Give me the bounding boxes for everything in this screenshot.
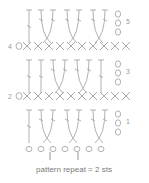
crossed-dc-pair-row3 bbox=[50, 60, 68, 93]
crochet-chart: 5 4 3 2 1 pattern repeat = 2 sts bbox=[0, 0, 149, 183]
row-label-3: 3 bbox=[126, 68, 130, 75]
sc-stitch-row4 bbox=[122, 42, 130, 50]
sc-stitch-row2 bbox=[34, 92, 42, 100]
row-label-5: 5 bbox=[126, 18, 130, 25]
sc-stitch-row2 bbox=[45, 92, 53, 100]
foundation-chain bbox=[86, 146, 92, 151]
sc-stitch-row4 bbox=[67, 42, 75, 50]
crossed-dc-pair-row1 bbox=[90, 110, 108, 143]
row-label-4: 4 bbox=[8, 43, 12, 50]
crossed-dc-pair-row3 bbox=[74, 60, 92, 93]
sc-stitch-row2 bbox=[67, 92, 75, 100]
chart-rows bbox=[16, 10, 130, 152]
sc-stitch-row2 bbox=[89, 92, 97, 100]
turning-chain-row3 bbox=[115, 70, 120, 76]
foundation-chain bbox=[98, 146, 104, 151]
sc-stitch-row2 bbox=[111, 92, 119, 100]
sc-stitch-row4 bbox=[34, 42, 42, 50]
foundation-chain bbox=[74, 146, 80, 151]
turning-chain-row1 bbox=[115, 120, 120, 126]
sc-stitch-row4 bbox=[23, 42, 31, 50]
crossed-dc-pair-row1 bbox=[38, 110, 56, 143]
row-label-2: 2 bbox=[8, 93, 12, 100]
dc-stitch-row3 bbox=[98, 60, 104, 93]
foundation-chain bbox=[62, 146, 68, 151]
dc-stitch-row1 bbox=[26, 110, 32, 143]
turning-chain-row3 bbox=[115, 61, 120, 67]
sc-stitch-row4 bbox=[111, 42, 119, 50]
foundation-chain bbox=[26, 146, 32, 151]
sc-stitch-row4 bbox=[56, 42, 64, 50]
turning-chain-row5 bbox=[115, 11, 120, 17]
sc-stitch-row4 bbox=[89, 42, 97, 50]
foundation-chain bbox=[38, 146, 44, 151]
turning-chain-row5 bbox=[115, 20, 120, 26]
sc-stitch-row2 bbox=[122, 92, 130, 100]
pattern-repeat-label: pattern repeat = 2 sts bbox=[36, 165, 112, 174]
turning-chain-row2 bbox=[16, 93, 22, 100]
row-label-1: 1 bbox=[126, 118, 130, 125]
crossed-dc-pair-row5 bbox=[90, 10, 108, 43]
turning-chain-row1 bbox=[115, 129, 120, 135]
sc-stitch-row2 bbox=[23, 92, 31, 100]
sc-stitch-row4 bbox=[78, 42, 86, 50]
sc-stitch-row2 bbox=[100, 92, 108, 100]
sc-stitch-row4 bbox=[45, 42, 53, 50]
foundation-chain bbox=[50, 146, 56, 151]
turning-chain-row3 bbox=[115, 79, 120, 85]
dc-stitch-row3 bbox=[38, 60, 44, 93]
turning-chain-row4 bbox=[16, 43, 22, 50]
turning-chain-row1 bbox=[115, 111, 120, 117]
crossed-dc-pair-row1 bbox=[64, 110, 82, 143]
dc-stitch-row5 bbox=[26, 10, 32, 43]
crossed-dc-pair-row5 bbox=[64, 10, 82, 43]
turning-chain-row5 bbox=[115, 29, 120, 35]
crossed-dc-pair-row5 bbox=[38, 10, 56, 43]
dc-stitch-row3 bbox=[26, 60, 32, 93]
sc-stitch-row4 bbox=[100, 42, 108, 50]
